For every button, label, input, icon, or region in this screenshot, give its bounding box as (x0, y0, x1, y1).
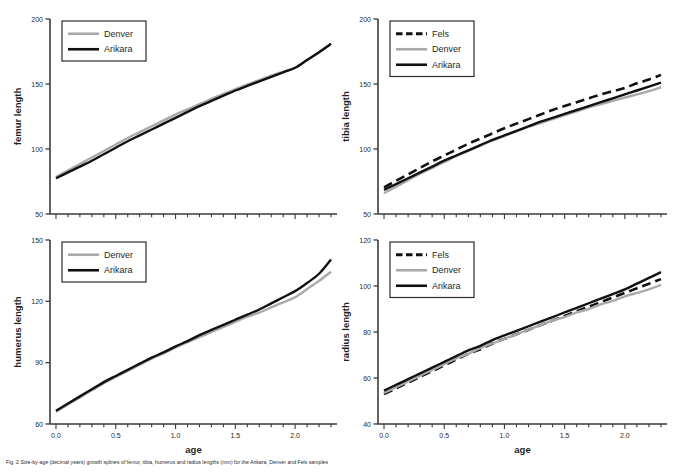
y-tick-label: 120 (359, 237, 371, 244)
y-tick-label: 50 (363, 211, 371, 218)
x-tick-label: 1.0 (500, 432, 510, 439)
legend: FelsDenverArikara (390, 242, 474, 298)
y-tick-label: 100 (31, 146, 43, 153)
legend: DenverArikara (62, 242, 146, 282)
y-tick-label: 90 (35, 359, 43, 366)
legend-label-arikara: Arikara (104, 44, 133, 54)
y-tick-label: 100 (359, 283, 371, 290)
x-tick-label: 0.0 (51, 432, 61, 439)
legend: DenverArikara (62, 21, 146, 61)
y-tick-label: 120 (31, 298, 43, 305)
x-tick-label: 1.5 (560, 432, 570, 439)
legend-label-arikara: Arikara (104, 265, 133, 275)
x-tick-label: 2.0 (620, 432, 630, 439)
y-tick-label: 80 (363, 329, 371, 336)
y-tick-label: 40 (363, 421, 371, 428)
legend-label-denver: Denver (104, 250, 133, 260)
y-tick-label: 60 (35, 421, 43, 428)
figure-caption: Fig. 2 Size-by-age (decimal years) growt… (6, 459, 676, 465)
legend-label-arikara: Arikara (432, 281, 461, 291)
y-tick-label: 200 (359, 16, 371, 23)
legend-label-arikara: Arikara (432, 60, 461, 70)
x-axis-title: age (514, 444, 530, 455)
y-axis-title: humerus length (12, 296, 23, 367)
legend-label-fels: Fels (432, 250, 450, 260)
legend-label-denver: Denver (432, 265, 461, 275)
y-axis-title: tibia length (340, 91, 351, 142)
x-tick-label: 0.5 (439, 432, 449, 439)
x-tick-label: 1.5 (230, 432, 240, 439)
y-axis-title: radius length (340, 302, 351, 362)
legend-box (62, 21, 146, 61)
legend-label-denver: Denver (432, 44, 461, 54)
y-tick-label: 100 (359, 146, 371, 153)
y-tick-label: 150 (31, 237, 43, 244)
x-tick-label: 0.5 (111, 432, 121, 439)
x-axis-title: age (185, 444, 201, 455)
legend-box (62, 242, 146, 282)
x-tick-label: 0.0 (379, 432, 389, 439)
y-axis-title: femur length (12, 88, 23, 146)
y-tick-label: 50 (35, 211, 43, 218)
legend-label-denver: Denver (104, 29, 133, 39)
y-tick-label: 150 (359, 81, 371, 88)
y-tick-label: 200 (31, 16, 43, 23)
legend: FelsDenverArikara (390, 21, 474, 77)
y-tick-label: 60 (363, 375, 371, 382)
y-tick-label: 150 (31, 81, 43, 88)
x-tick-label: 1.0 (171, 432, 181, 439)
legend-label-fels: Fels (432, 29, 450, 39)
x-tick-label: 2.0 (290, 432, 300, 439)
figure-panel-grid: 50100150200femur lengthDenverArikara5010… (0, 0, 681, 472)
